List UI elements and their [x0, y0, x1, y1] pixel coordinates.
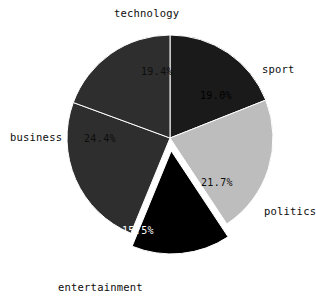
pie-category-label-technology: technology [114, 7, 179, 19]
pie-percent-label-entertainment: 15.5% [122, 225, 154, 236]
pie-percent-label-sport: 19.0% [200, 90, 232, 101]
pie-category-label-sport: sport [262, 63, 295, 75]
pie-chart-page: 19.0%21.7%15.5%24.4%19.4% sportpoliticse… [0, 0, 316, 305]
pie-category-label-business: business [10, 131, 62, 143]
pie-percent-label-technology: 19.4% [141, 66, 173, 77]
pie-chart: 19.0%21.7%15.5%24.4%19.4% sportpoliticse… [0, 0, 316, 305]
pie-percent-label-business: 24.4% [84, 133, 116, 144]
pie-category-label-entertainment: entertainment [58, 281, 143, 293]
pie-category-label-politics: politics [264, 205, 316, 217]
pie-percent-label-politics: 21.7% [201, 177, 233, 188]
